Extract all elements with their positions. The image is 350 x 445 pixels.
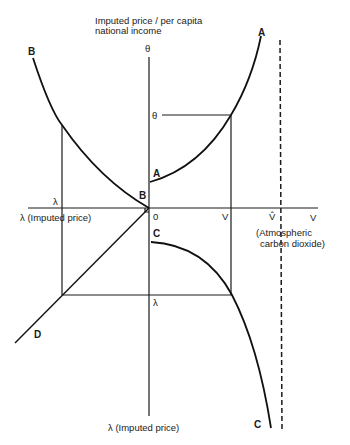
v-hat-marker: V̂	[269, 211, 276, 222]
curve-b	[33, 58, 149, 208]
v-axis-label: V	[310, 212, 317, 223]
theta-marker: θ	[152, 110, 157, 121]
lambda-bottom-axis-label: λ (Imputed price)	[108, 422, 179, 433]
origin-label: 0	[153, 211, 158, 222]
four-quadrant-diagram: Imputed price / per capita national inco…	[0, 0, 350, 445]
lambda-bottom-marker: λ	[153, 297, 158, 308]
curve-a-origin-label: A	[153, 168, 160, 179]
curve-a-top-label: A	[258, 27, 265, 38]
curve-d-label: D	[34, 329, 41, 340]
curve-a	[150, 36, 261, 182]
v-axis-sublabel-line1: (Atmospheric	[256, 227, 312, 238]
curve-c	[151, 242, 271, 428]
curve-b-top-label: B	[28, 46, 35, 57]
curve-c-bottom-label: C	[254, 419, 261, 430]
lambda-left-marker: λ	[53, 196, 58, 207]
curve-b-origin-label: B	[139, 190, 146, 201]
lambda-left-axis-label: λ (Imputed price)	[20, 212, 91, 223]
v-axis-sublabel-line2: carbon dioxide)	[260, 238, 325, 249]
theta-axis-label: θ	[145, 43, 150, 54]
diagram-title-line2: national income	[95, 25, 162, 36]
v-marker: V	[222, 211, 229, 222]
curve-c-origin-label: C	[153, 228, 160, 239]
v-hat-asymptote	[280, 40, 282, 430]
curve-d	[15, 208, 149, 343]
